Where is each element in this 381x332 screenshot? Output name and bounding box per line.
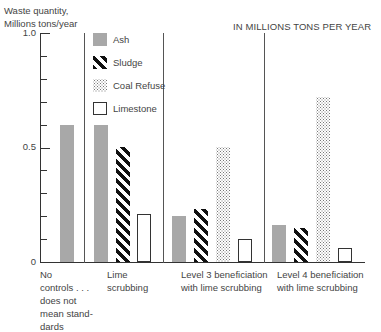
group-divider [264,33,265,263]
y-axis-tick [40,125,47,126]
category-label-line: Lime [107,268,148,281]
bar-limestone [137,214,151,262]
y-axis-title-line1: Waste quantity, [4,4,77,17]
bar-coal-refuse [216,147,230,262]
bar-sludge [116,147,130,262]
group-divider [163,33,164,263]
category-label-line: Level 4 beneficiation [277,268,364,281]
legend-swatch-sludge [93,56,107,69]
legend-swatch-limestone [93,102,107,115]
bar-ash [60,125,74,262]
y-axis-title: Waste quantity, Millions tons/year [4,4,77,30]
y-axis-tick [40,239,47,240]
y-axis-tick [40,102,47,103]
category-label-line: mean stand- [40,307,93,320]
category-label-lime-scrubbing: Lime scrubbing [107,268,148,294]
chart-subtitle: IN MILLIONS TONS PER YEAR [233,21,371,32]
y-tick-label-1: 1.0 [16,27,36,38]
bar-sludge [294,228,308,262]
category-label-line: dards [40,320,93,332]
y-tick-label-0: 0 [16,256,36,267]
legend-swatch-ash [93,33,107,46]
bar-coal-refuse [316,97,330,262]
y-axis-tick [40,79,47,80]
category-label-line: does not [40,294,93,307]
legend-label-ash: Ash [113,34,129,45]
bar-limestone [238,239,252,262]
bar-limestone [338,248,352,262]
category-label-level-4: Level 4 beneficiation with lime scrubbin… [277,268,364,294]
legend-label-limestone: Limestone [113,103,157,114]
y-axis-tick [40,262,50,263]
y-axis-title-line2: Millions tons/year [4,17,77,30]
category-label-no-controls: No controls . . . does not mean stand- d… [40,268,93,332]
category-label-line: with lime scrubbing [277,281,364,294]
x-axis-line [40,262,365,263]
y-axis-tick [40,33,50,34]
category-label-line: No [40,268,93,281]
group-divider [84,33,85,263]
legend-label-coal-refuse: Coal Refuse [113,80,165,91]
category-label-line: Level 3 beneficiation [181,268,268,281]
y-axis-tick [40,216,47,217]
legend-label-sludge: Sludge [113,57,143,68]
y-tick-label-05: 0.5 [16,141,36,152]
y-axis-tick [40,148,50,149]
category-label-line: with lime scrubbing [181,281,268,294]
y-axis-tick [40,56,47,57]
category-label-level-3: Level 3 beneficiation with lime scrubbin… [181,268,268,294]
bar-ash [272,225,286,262]
y-axis-tick [40,170,47,171]
bar-ash [172,216,186,262]
category-label-line: controls . . . [40,281,93,294]
legend-swatch-coal-refuse [93,79,107,92]
y-axis-tick [40,193,47,194]
bar-sludge [194,209,208,262]
category-label-line: scrubbing [107,281,148,294]
bar-ash [94,125,108,262]
